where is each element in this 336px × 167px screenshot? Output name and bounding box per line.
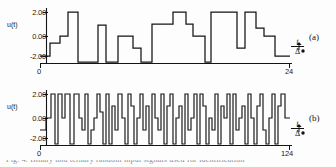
panel-a: 2.00 0.00 -2.00 u(t) 0 24 t Δ (a) bbox=[0, 0, 336, 84]
panel-b-step-waveform bbox=[40, 94, 290, 144]
panel-b-y-tick-marks bbox=[43, 95, 48, 139]
caption-text: Fig. 4. Binary and ternary random input … bbox=[6, 160, 245, 164]
panel-a-step-waveform bbox=[40, 12, 290, 62]
figure-container: 2.00 0.00 -2.00 u(t) 0 24 t Δ (a) bbox=[0, 0, 336, 167]
panel-a-x-tick-marks bbox=[41, 64, 290, 69]
panel-b-axis-arrow-head bbox=[296, 124, 301, 127]
panel-b: 2.00 0.00 -2.00 u(t) 0 124 t Δ (b) bbox=[0, 84, 336, 167]
panel-a-y-tick-marks bbox=[43, 13, 48, 57]
panel-b-axis-dot bbox=[301, 131, 304, 134]
panel-b-plot bbox=[0, 84, 336, 167]
caption-strip: Fig. 4. Binary and ternary random input … bbox=[0, 160, 336, 167]
panel-a-axis-arrow-head bbox=[296, 42, 301, 45]
panel-a-axis-dot bbox=[301, 49, 304, 52]
panel-b-x-tick-marks bbox=[41, 146, 290, 151]
panel-a-plot bbox=[0, 0, 336, 84]
